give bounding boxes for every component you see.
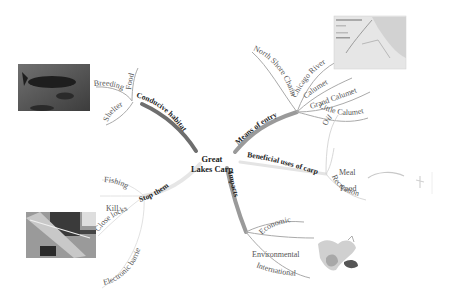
- lock-aerial-photo: [26, 212, 96, 258]
- fish-photo: [18, 64, 90, 111]
- leaf-fishing: Fishing: [104, 175, 130, 190]
- leaf-little-calumet: Little Calumet: [318, 101, 365, 117]
- waterway-map: [334, 16, 406, 69]
- svg-text:Little Calumet: Little Calumet: [318, 101, 365, 117]
- svg-text:Fishing: Fishing: [104, 175, 130, 190]
- mind-map: Great Lakes Carp Conducive habitat Means…: [0, 0, 451, 298]
- svg-text:Food: Food: [124, 72, 136, 90]
- leaf-food-habitat: Food: [124, 72, 136, 90]
- svg-text:Conducive habitat: Conducive habitat: [135, 90, 189, 133]
- branch-label-means-of-entry: Means of entry: [233, 110, 278, 146]
- svg-text:Stop them: Stop them: [138, 180, 171, 204]
- branch-label-stop-them: Stop them: [138, 180, 171, 204]
- svg-text:International: International: [255, 260, 297, 277]
- svg-text:Breeding: Breeding: [93, 78, 125, 91]
- branch-label-impacts: Impacts: [226, 171, 241, 198]
- leaf-environmental: Environmental: [252, 250, 300, 259]
- leaf-breeding: Breeding: [93, 78, 125, 91]
- leaf-shelter: Shelter: [101, 100, 124, 123]
- svg-text:Economic: Economic: [257, 215, 292, 236]
- fishing-sketch: [368, 172, 432, 194]
- great-lakes-map: [318, 236, 358, 270]
- leaf-meal: Meal: [339, 168, 356, 177]
- svg-text:Shelter: Shelter: [101, 100, 124, 123]
- svg-text:Means of entry: Means of entry: [233, 110, 278, 146]
- leaf-international: International: [255, 260, 297, 277]
- svg-text:Impacts: Impacts: [226, 171, 241, 198]
- branch-label-conducive-habitat: Conducive habitat: [135, 90, 189, 133]
- center-topic-line1: Great: [202, 155, 223, 164]
- leaf-economic: Economic: [257, 215, 292, 236]
